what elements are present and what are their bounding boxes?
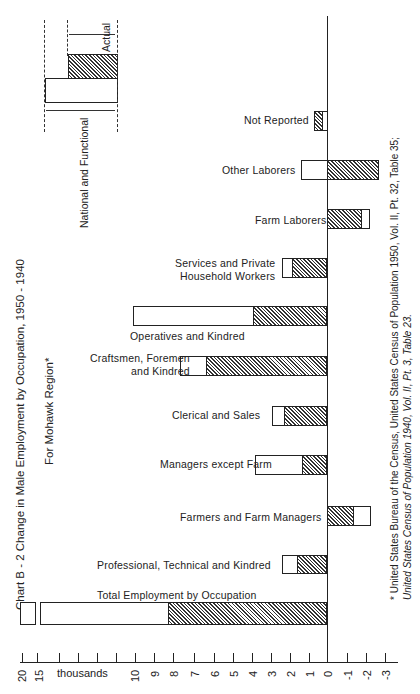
legend-arrow-national [46,110,115,111]
legend-guide-left [44,20,45,132]
legend-hatch-swatch [68,54,118,79]
chart-title: Chart B - 2 Change in Male Employment by… [14,259,26,610]
category-label: Total Employment by Occupation [97,589,257,601]
legend-guide-right [117,20,118,132]
chart-subtitle: For Mohawk Region* [43,358,55,465]
footnote-line2: United States Census of Population 1940,… [402,314,413,600]
legend-national-label: National and Functional [78,118,90,228]
legend-guide-mid [67,20,68,56]
value-axis-line [20,662,398,663]
category-label: Managers Managers except Farmexcept Farm [160,458,272,470]
legend-open-swatch [45,78,118,103]
footnote-line1: * United States Bureau of the Census, Un… [389,137,400,600]
legend-actual-label: Actual [100,23,112,52]
